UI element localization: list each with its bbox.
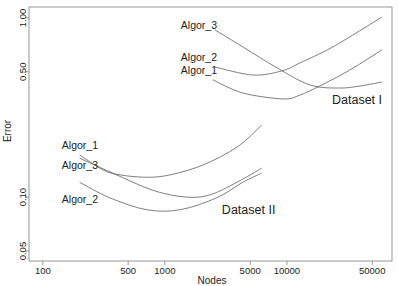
chart-background <box>0 0 398 286</box>
algorithm-label: Algor_3 <box>181 19 217 31</box>
dataset-label: Dataset I <box>332 93 382 107</box>
y-axis-title: Error <box>2 119 13 142</box>
y-tick-label: 0.05 <box>17 242 28 260</box>
algorithm-label: Algor_2 <box>181 51 217 63</box>
x-tick-label: 10000 <box>274 265 300 276</box>
x-tick-label: 50000 <box>359 265 385 276</box>
y-tick-label: 0.10 <box>17 188 28 207</box>
x-tick-label: 5000 <box>240 265 261 276</box>
dataset-label: Dataset II <box>222 203 276 217</box>
error-vs-nodes-chart: 0.050.100.501.00 10050010005000100005000… <box>0 0 398 286</box>
algorithm-label: Algor_1 <box>62 139 98 151</box>
algorithm-label: Algor_2 <box>62 193 98 205</box>
y-tick-label: 0.50 <box>17 63 28 82</box>
x-axis-title: Nodes <box>198 275 227 286</box>
x-tick-label: 500 <box>120 265 136 276</box>
x-tick-label: 100 <box>35 265 51 276</box>
algorithm-label: Algor_1 <box>181 64 217 76</box>
x-tick-label: 1000 <box>154 265 175 276</box>
algorithm-label: Algor_3 <box>62 159 98 171</box>
y-tick-label: 1.00 <box>17 9 28 28</box>
